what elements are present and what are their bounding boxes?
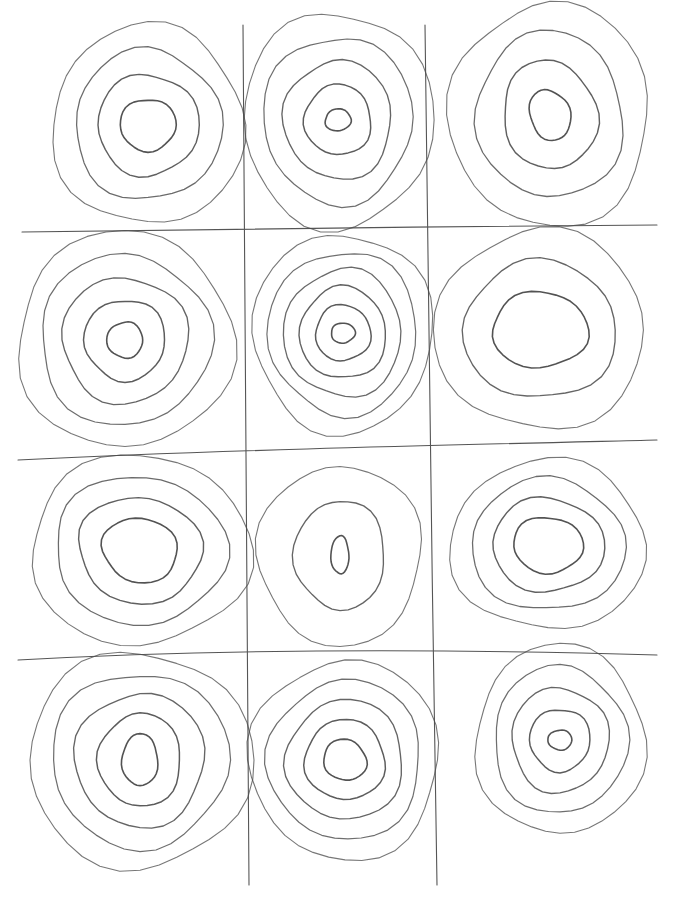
concentric-ring [98, 74, 199, 177]
concentric-ring [32, 455, 253, 646]
concentric-ring [267, 254, 416, 419]
cell-r4-c1 [30, 652, 254, 871]
cell-r3-c1 [32, 455, 253, 646]
concentric-ring [244, 14, 434, 232]
concentric-ring [473, 476, 627, 608]
cell-r2-c2 [252, 236, 433, 437]
concentric-ring [54, 677, 231, 852]
concentric-ring [252, 236, 433, 437]
cell-r3-c2 [255, 467, 421, 647]
concentric-ring [292, 502, 383, 611]
concentric-ring [303, 84, 371, 154]
center-ring [121, 734, 157, 786]
concentric-ring [53, 22, 246, 223]
center-ring [325, 109, 351, 131]
center-ring [101, 518, 177, 583]
concentric-ring [247, 660, 439, 861]
center-ring [332, 323, 356, 343]
concentric-ring [84, 302, 165, 383]
cell-r2-c3 [433, 227, 643, 429]
concentric-ring [462, 258, 615, 396]
concentric-ring [529, 710, 590, 773]
concentric-ring [433, 227, 643, 429]
vertical-line-1 [243, 25, 249, 885]
concentric-ring [62, 278, 189, 405]
concentric-ring [30, 652, 254, 871]
cell-r4-c3 [475, 643, 647, 833]
horizontal-line-3 [18, 651, 657, 660]
concentric-ring [96, 713, 179, 806]
center-ring [120, 100, 176, 152]
vertical-line-2 [425, 25, 437, 885]
center-ring [548, 730, 572, 750]
concentric-ring [283, 267, 401, 397]
concentric-ring [74, 694, 205, 829]
cell-r1-c1 [53, 22, 246, 223]
concentric-ring [447, 1, 648, 226]
concentric-ring [512, 687, 609, 793]
concentric-ring [265, 679, 419, 839]
concentric-ring [264, 39, 413, 208]
center-ring [107, 322, 143, 359]
concentric-ring [475, 643, 647, 833]
concentric-ring [316, 305, 372, 362]
concentric-ring [304, 719, 386, 799]
concentric-ring [282, 60, 391, 180]
concentric-ring [19, 231, 237, 447]
cell-r2-c1 [19, 231, 237, 447]
concentric-ring [450, 457, 647, 628]
cell-r4-c2 [247, 660, 439, 861]
cell-r1-c2 [244, 14, 434, 232]
concentric-ring [79, 498, 204, 605]
center-ring [492, 291, 589, 368]
cell-r1-c3 [447, 1, 648, 226]
cell-r3-c3 [450, 457, 647, 628]
center-ring [324, 739, 368, 780]
concentric-ring [299, 285, 385, 377]
concentric-ring [493, 497, 605, 593]
center-ring [529, 90, 571, 141]
sketch-canvas [0, 0, 677, 908]
concentric-ring [505, 60, 599, 169]
center-ring [514, 518, 584, 575]
concentric-ring [255, 467, 421, 647]
circle-cells [19, 1, 648, 871]
center-ring [331, 536, 349, 574]
concentric-ring [474, 30, 623, 196]
